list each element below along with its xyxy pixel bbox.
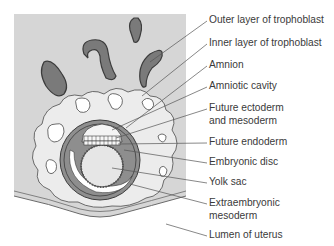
label-extraembryonic-line2: mesoderm [209, 210, 257, 223]
label-extraembryonic-line1: Extraembryonic [209, 197, 280, 210]
label-future-ectoderm-line2: and mesoderm [209, 115, 277, 128]
label-future-ectoderm-line1: Future ectoderm [209, 102, 284, 115]
label-lumen-of-uterus: Lumen of uterus [209, 229, 283, 242]
label-outer-trophoblast: Outer layer of trophoblast [209, 14, 324, 27]
label-amnion: Amnion [209, 59, 244, 72]
label-inner-trophoblast: Inner layer of trophoblast [209, 37, 322, 50]
label-amniotic-cavity: Amniotic cavity [209, 80, 277, 93]
embryonic-disc-cells [84, 136, 120, 145]
label-yolk-sac: Yolk sac [209, 176, 247, 189]
label-future-endoderm: Future endoderm [209, 136, 287, 149]
label-embryonic-disc: Embryonic disc [209, 156, 278, 169]
